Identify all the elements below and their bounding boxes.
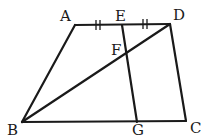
label-c: C (190, 119, 201, 136)
segment-bc (22, 121, 186, 122)
segment-cd (170, 24, 186, 121)
trapezoid-diagram: A E D F B G C (0, 0, 206, 136)
label-b: B (7, 121, 18, 136)
label-e: E (115, 7, 126, 25)
label-f: F (111, 41, 121, 59)
label-a: A (59, 7, 71, 25)
label-d: D (173, 6, 185, 24)
segment-eg (122, 25, 137, 122)
segment-ab (22, 25, 75, 122)
segment-bd (22, 24, 170, 122)
label-g: G (132, 121, 144, 136)
